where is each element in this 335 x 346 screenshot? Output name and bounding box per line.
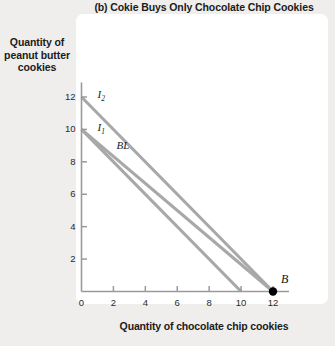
y-tick-label-8: 8 — [54, 156, 76, 167]
curve-label-I1: I1 — [97, 121, 104, 136]
y-tick-label-12: 12 — [54, 91, 76, 102]
y-tick-label-6: 6 — [54, 188, 76, 199]
x-tick-label-8: 8 — [199, 297, 219, 308]
chart-title: (b) Cokie Buys Only Chocolate Chip Cooki… — [76, 1, 332, 13]
x-axis-label: Quantity of chocolate chip cookies — [78, 320, 330, 332]
y-tick-label-10: 10 — [54, 123, 76, 134]
chart-panel — [76, 14, 328, 304]
y-tick-label-4: 4 — [54, 221, 76, 232]
x-tick-label-4: 4 — [135, 297, 155, 308]
y-tick-label-2: 2 — [54, 253, 76, 264]
y-axis-label: Quantity of peanut butter cookies — [2, 36, 72, 74]
x-tick-label-12: 12 — [263, 297, 283, 308]
curve-label-BL: BL — [117, 139, 130, 151]
x-tick-label-0: 0 — [72, 297, 92, 308]
x-tick-label-6: 6 — [167, 297, 187, 308]
x-tick-label-2: 2 — [103, 297, 123, 308]
curve-label-I2: I2 — [97, 88, 104, 103]
x-tick-label-10: 10 — [231, 297, 251, 308]
